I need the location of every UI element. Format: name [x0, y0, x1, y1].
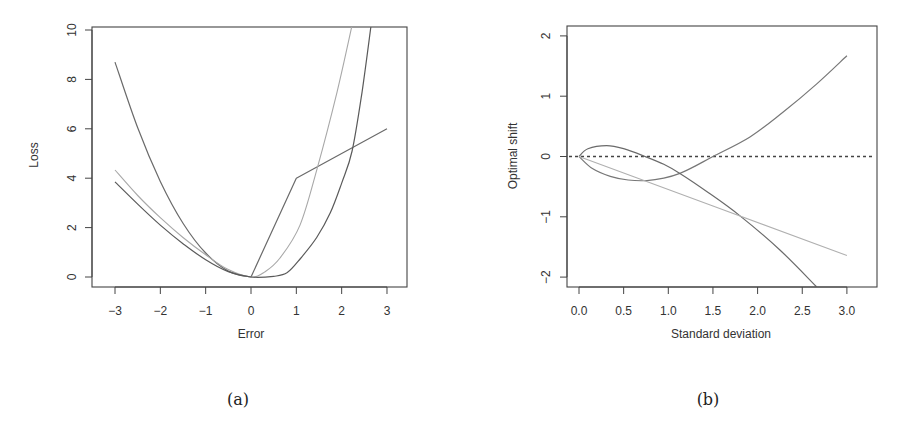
panel-b-optimal-shift-chart: 0.00.51.01.52.02.53.0 −2−1012 Standard d… — [506, 26, 877, 409]
y-tick-label: 1 — [539, 93, 553, 100]
curves-b — [579, 56, 847, 287]
series-line-2 — [579, 146, 817, 287]
y-tick-label: 4 — [65, 175, 79, 182]
x-axis-label-a: Error — [238, 327, 265, 341]
y-tick-label: 2 — [65, 224, 79, 231]
series-line-2 — [115, 25, 352, 277]
x-tick-label: 3.0 — [839, 304, 856, 318]
y-tick-label: −1 — [539, 210, 553, 224]
x-tick-label: 1.0 — [660, 304, 677, 318]
x-axis-b: 0.00.51.01.52.02.53.0 — [571, 287, 856, 318]
y-axis-label-a: Loss — [27, 142, 41, 167]
y-axis-b: −2−1012 — [539, 32, 567, 284]
x-tick-label: 1 — [293, 304, 300, 318]
curves-a — [115, 25, 387, 277]
x-axis-label-b: Standard deviation — [671, 327, 771, 341]
y-tick-label: 10 — [65, 23, 79, 37]
x-tick-label: 2 — [338, 304, 345, 318]
caption-a: (a) — [227, 390, 249, 409]
y-tick-label: −2 — [539, 270, 553, 284]
y-axis-label-b: Optimal shift — [506, 122, 520, 189]
series-line-3 — [579, 157, 847, 256]
panel-a-loss-chart: −3−2−10123 0246810 Error Loss (a) — [27, 23, 407, 409]
x-axis-a: −3−2−10123 — [108, 287, 390, 318]
y-tick-label: 8 — [65, 76, 79, 83]
caption-b: (b) — [697, 390, 720, 409]
x-tick-label: 1.5 — [705, 304, 722, 318]
x-tick-label: 0.5 — [615, 304, 632, 318]
y-tick-label: 0 — [65, 273, 79, 280]
x-tick-label: 3 — [384, 304, 391, 318]
x-tick-label: −3 — [108, 304, 122, 318]
x-tick-label: 2.0 — [749, 304, 766, 318]
y-axis-a: 0246810 — [65, 23, 92, 280]
y-tick-label: 0 — [539, 153, 553, 160]
x-tick-label: −2 — [153, 304, 167, 318]
plot-frame-a — [92, 27, 407, 287]
series-line-1 — [579, 56, 847, 181]
x-tick-label: 0.0 — [571, 304, 588, 318]
x-tick-label: −1 — [199, 304, 213, 318]
y-tick-label: 2 — [539, 32, 553, 39]
figure: −3−2−10123 0246810 Error Loss (a) 0.00.5… — [0, 0, 907, 430]
series-line-3 — [115, 25, 371, 277]
x-tick-label: 2.5 — [794, 304, 811, 318]
x-tick-label: 0 — [248, 304, 255, 318]
y-tick-label: 6 — [65, 125, 79, 132]
